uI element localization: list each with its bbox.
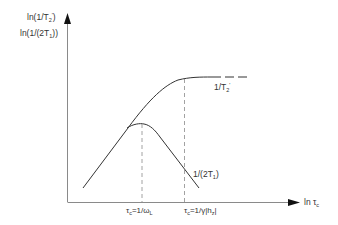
x-axis-label: ln τc	[304, 198, 319, 208]
curve-inv-2t1	[127, 124, 199, 188]
curve-label-inv-2t1: 1/(2T1)	[193, 170, 219, 180]
marker-label-gamma-hz: τc=1/γ|hz|	[184, 207, 217, 216]
y-axis-arrow-icon	[64, 13, 71, 24]
marker-label-omega-l: τc=1/ωL	[126, 207, 153, 216]
y-axis-label-t1: ln(1/(2T1))	[20, 29, 58, 39]
x-axis-arrow-icon	[288, 199, 300, 206]
curve-label-inv-t2-prime: 1/T2'	[214, 83, 230, 93]
y-axis-label-t2: ln(1/T2')	[27, 13, 56, 23]
